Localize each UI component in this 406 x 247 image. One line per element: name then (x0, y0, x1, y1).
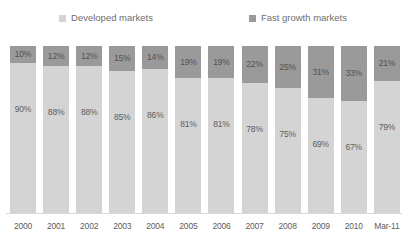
bar-segment-label: 88% (48, 108, 64, 117)
bar-column[interactable]: 15%85% (109, 46, 135, 213)
bar-column[interactable]: 19%81% (175, 46, 201, 213)
bar-segment-fast-growth-markets[interactable]: 31% (308, 46, 334, 98)
x-axis-line (6, 213, 402, 214)
x-axis-tick-label: 2006 (208, 222, 234, 240)
bar-segment-label: 12% (48, 52, 64, 61)
bar-segment-label: 22% (246, 60, 262, 69)
bar-segment-label: 15% (114, 54, 130, 63)
bar-segment-label: 78% (246, 125, 262, 134)
bar-segment-label: 86% (147, 111, 163, 120)
legend-label-fast-growth-markets: Fast growth markets (261, 13, 347, 23)
legend-item-developed-markets[interactable]: Developed markets (59, 13, 153, 23)
x-axis-tick-label: 2008 (275, 222, 301, 240)
bar-segment-label: 33% (346, 69, 362, 78)
x-axis-tick-label: 2001 (43, 222, 69, 240)
bar-segment-label: 67% (346, 143, 362, 152)
bar-segment-developed-markets[interactable]: 90% (10, 63, 36, 213)
bar-segment-label: 75% (279, 130, 295, 139)
bar-segment-label: 31% (312, 68, 328, 77)
bar-column[interactable]: 14%86% (142, 46, 168, 213)
bar-segment-label: 69% (312, 140, 328, 149)
bar-segment-label: 79% (379, 123, 395, 132)
x-axis-tick-label: 2000 (10, 222, 36, 240)
x-axis-tick-label: 2002 (76, 222, 102, 240)
bar-segment-developed-markets[interactable]: 81% (175, 78, 201, 213)
legend-label-developed-markets: Developed markets (71, 13, 153, 23)
bar-segment-label: 19% (213, 58, 229, 67)
legend-item-fast-growth-markets[interactable]: Fast growth markets (249, 13, 347, 23)
bar-column[interactable]: 21%79% (374, 46, 400, 213)
x-axis-tick-label: 2007 (242, 222, 268, 240)
bar-segment-label: 85% (114, 113, 130, 122)
bar-segment-developed-markets[interactable]: 69% (308, 98, 334, 213)
bar-segment-developed-markets[interactable]: 88% (43, 66, 69, 213)
plot-area: 10%90%12%88%12%88%15%85%14%86%19%81%19%8… (10, 46, 400, 213)
legend-swatch-developed-icon (59, 15, 66, 22)
bar-column[interactable]: 12%88% (76, 46, 102, 213)
bar-segment-developed-markets[interactable]: 88% (76, 66, 102, 213)
x-axis-tick-label: 2010 (341, 222, 367, 240)
bar-segment-fast-growth-markets[interactable]: 14% (142, 46, 168, 69)
bar-segment-fast-growth-markets[interactable]: 12% (43, 46, 69, 66)
x-axis-tick-label: Mar-11 (374, 222, 400, 240)
legend-swatch-fast-growth-icon (249, 15, 256, 22)
bar-segment-fast-growth-markets[interactable]: 33% (341, 46, 367, 101)
bar-segment-developed-markets[interactable]: 86% (142, 69, 168, 213)
bar-segment-label: 19% (180, 58, 196, 67)
bar-segment-developed-markets[interactable]: 85% (109, 71, 135, 213)
bar-segment-label: 90% (15, 105, 31, 114)
bar-segment-label: 81% (213, 120, 229, 129)
x-axis-tick-label: 2004 (142, 222, 168, 240)
bar-segment-label: 10% (15, 50, 31, 59)
bar-segment-label: 12% (81, 52, 97, 61)
bar-column[interactable]: 33%67% (341, 46, 367, 213)
x-axis-tick-label: 2003 (109, 222, 135, 240)
bar-column[interactable]: 25%75% (275, 46, 301, 213)
bar-segment-label: 25% (279, 63, 295, 72)
stacked-bar-chart: Developed markets Fast growth markets 10… (0, 0, 406, 247)
bar-segment-developed-markets[interactable]: 75% (275, 88, 301, 213)
bar-segment-fast-growth-markets[interactable]: 10% (10, 46, 36, 63)
bar-column[interactable]: 22%78% (242, 46, 268, 213)
x-axis-tick-labels: 2000200120022003200420052006200720082009… (10, 222, 400, 240)
bar-segment-fast-growth-markets[interactable]: 12% (76, 46, 102, 66)
bar-segment-developed-markets[interactable]: 81% (208, 78, 234, 213)
bar-segment-fast-growth-markets[interactable]: 19% (175, 46, 201, 78)
bar-segment-fast-growth-markets[interactable]: 19% (208, 46, 234, 78)
bar-segment-label: 81% (180, 120, 196, 129)
bar-segment-label: 88% (81, 108, 97, 117)
x-axis-tick-label: 2005 (175, 222, 201, 240)
bar-segment-fast-growth-markets[interactable]: 25% (275, 46, 301, 88)
bar-segment-developed-markets[interactable]: 78% (242, 83, 268, 213)
bar-column[interactable]: 19%81% (208, 46, 234, 213)
chart-legend: Developed markets Fast growth markets (0, 9, 406, 27)
bar-column[interactable]: 31%69% (308, 46, 334, 213)
bar-segment-fast-growth-markets[interactable]: 21% (374, 46, 400, 81)
bar-segment-fast-growth-markets[interactable]: 15% (109, 46, 135, 71)
bar-segment-developed-markets[interactable]: 67% (341, 101, 367, 213)
bar-column[interactable]: 10%90% (10, 46, 36, 213)
bar-segment-label: 21% (379, 59, 395, 68)
bar-segment-fast-growth-markets[interactable]: 22% (242, 46, 268, 83)
bar-segment-developed-markets[interactable]: 79% (374, 81, 400, 213)
bar-column[interactable]: 12%88% (43, 46, 69, 213)
bar-segment-label: 14% (147, 53, 163, 62)
x-axis-tick-label: 2009 (308, 222, 334, 240)
